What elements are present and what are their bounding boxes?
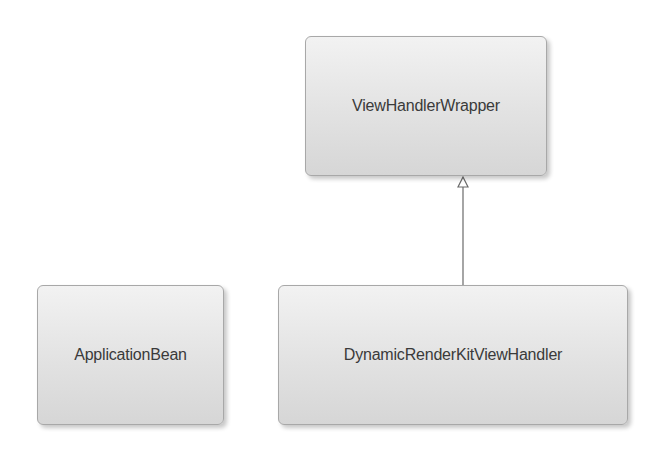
class-name: ApplicationBean — [74, 346, 187, 364]
class-box-viewhandlerwrapper[interactable]: ViewHandlerWrapper — [305, 36, 547, 176]
class-name: ViewHandlerWrapper — [352, 97, 500, 115]
class-box-applicationbean[interactable]: ApplicationBean — [37, 285, 224, 425]
class-box-dynamicrenderkitviewhandler[interactable]: DynamicRenderKitViewHandler — [278, 285, 628, 425]
hollow-triangle-arrowhead-icon — [458, 177, 468, 187]
class-name: DynamicRenderKitViewHandler — [344, 346, 562, 364]
generalization-arrow — [458, 177, 468, 285]
uml-diagram-canvas: ViewHandlerWrapper ApplicationBean Dynam… — [0, 0, 666, 452]
